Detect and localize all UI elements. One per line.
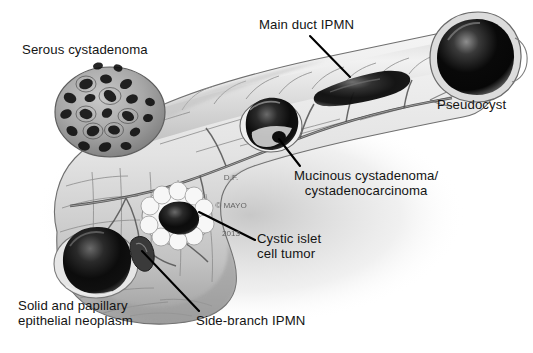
- label-main-duct-ipmn: Main duct IPMN: [259, 17, 354, 32]
- label-side-branch-ipmn: Side-branch IPMN: [196, 313, 305, 328]
- label-cystic-islet-cell-tumor: Cystic islet cell tumor: [257, 231, 321, 261]
- pancreas-cystic-lesions-figure: Serous cystadenoma Main duct IPMN Pseudo…: [0, 0, 533, 353]
- watermark-line-initials: D.F.: [200, 173, 262, 182]
- mayo-copyright-watermark: D.F. © MAYO 2013: [200, 155, 262, 256]
- watermark-line-mayo: © MAYO: [200, 201, 262, 210]
- lesion-pseudocyst: [430, 12, 527, 102]
- watermark-line-year: 2013: [200, 229, 262, 238]
- label-mucinous-cystadenoma: Mucinous cystadenoma/ cystadenocarcinoma: [294, 168, 438, 198]
- label-solid-papillary-epithelial-neoplasm: Solid and papillary epithelial neoplasm: [18, 298, 133, 328]
- lesion-serous-cystadenoma: [55, 62, 165, 157]
- label-pseudocyst: Pseudocyst: [437, 97, 506, 112]
- label-serous-cystadenoma: Serous cystadenoma: [22, 42, 148, 57]
